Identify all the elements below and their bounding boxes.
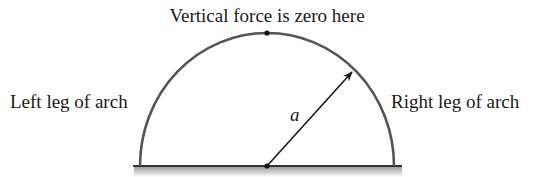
top-label: Vertical force is zero here (169, 5, 364, 26)
right-leg-label: Right leg of arch (391, 91, 520, 112)
arch-diagram: Vertical force is zero here Left leg of … (0, 0, 542, 177)
ground-shading (134, 167, 402, 177)
radius-label: a (290, 104, 300, 125)
left-leg-label: Left leg of arch (10, 91, 128, 112)
radius-arrow (267, 72, 352, 166)
semicircle-arch (140, 33, 394, 166)
top-point (264, 30, 269, 35)
